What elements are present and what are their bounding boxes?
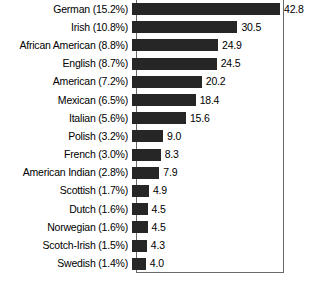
- bar: [132, 149, 161, 161]
- bar-row: Mexican (6.5%)18.4: [0, 91, 310, 109]
- bar: [132, 221, 148, 233]
- bar-value-label: 8.3: [161, 149, 179, 160]
- category-label: Mexican (6.5%): [0, 95, 132, 106]
- category-label: Irish (10.8%): [0, 22, 132, 33]
- bar-track: 9.0: [132, 127, 310, 145]
- category-label: Scottish (1.7%): [0, 185, 132, 196]
- bar-row: Scottish (1.7%)4.9: [0, 182, 310, 200]
- bar-track: 15.6: [132, 109, 310, 127]
- bar-track: 4.5: [132, 218, 310, 236]
- category-label: Norwegian (1.6%): [0, 222, 132, 233]
- bar-value-label: 4.5: [148, 204, 166, 215]
- bar-track: 4.5: [132, 200, 310, 218]
- category-label: Polish (3.2%): [0, 131, 132, 142]
- bar-row: German (15.2%)42.8: [0, 0, 310, 18]
- category-label: American (7.2%): [0, 76, 132, 87]
- bar-row: Norwegian (1.6%)4.5: [0, 218, 310, 236]
- ancestry-bar-chart: German (15.2%)42.8Irish (10.8%)30.5Afric…: [0, 0, 310, 281]
- bar-track: 30.5: [132, 18, 310, 36]
- category-label: English (8.7%): [0, 58, 132, 69]
- bar-value-label: 18.4: [196, 95, 220, 106]
- category-label: French (3.0%): [0, 149, 132, 160]
- bar-track: 4.0: [132, 255, 310, 273]
- bar-row: American (7.2%)20.2: [0, 73, 310, 91]
- bar: [132, 258, 146, 270]
- bar-track: 24.9: [132, 36, 310, 54]
- bar-value-label: 4.5: [148, 222, 166, 233]
- category-label: African American (8.8%): [0, 40, 132, 51]
- bar-track: 4.3: [132, 236, 310, 254]
- category-label: Scotch-Irish (1.5%): [0, 240, 132, 251]
- bar-value-label: 4.0: [146, 258, 164, 269]
- bar: [132, 76, 202, 88]
- bar: [132, 58, 217, 70]
- bar-value-label: 4.3: [147, 240, 165, 251]
- category-label: Italian (5.6%): [0, 113, 132, 124]
- bar-row: English (8.7%)24.5: [0, 55, 310, 73]
- category-label: German (15.2%): [0, 4, 132, 15]
- bar: [132, 94, 196, 106]
- bar-row: Irish (10.8%)30.5: [0, 18, 310, 36]
- bar: [132, 130, 163, 142]
- bar-value-label: 20.2: [202, 76, 226, 87]
- bar: [132, 203, 148, 215]
- bar-row: American Indian (2.8%)7.9: [0, 164, 310, 182]
- bar-track: 42.8: [132, 0, 310, 18]
- bar-value-label: 7.9: [159, 167, 177, 178]
- bar: [132, 39, 218, 51]
- bar-value-label: 9.0: [163, 131, 181, 142]
- bar: [132, 167, 159, 179]
- bar-rows-container: German (15.2%)42.8Irish (10.8%)30.5Afric…: [0, 0, 310, 273]
- bar-track: 7.9: [132, 164, 310, 182]
- bar-value-label: 4.9: [149, 185, 167, 196]
- bar-track: 8.3: [132, 146, 310, 164]
- bar: [132, 185, 149, 197]
- bar-row: Dutch (1.6%)4.5: [0, 200, 310, 218]
- bar-value-label: 24.5: [217, 58, 241, 69]
- bar-value-label: 15.6: [186, 113, 210, 124]
- category-label: Swedish (1.4%): [0, 258, 132, 269]
- category-label: Dutch (1.6%): [0, 204, 132, 215]
- bar-row: Polish (3.2%)9.0: [0, 127, 310, 145]
- bar-row: Scotch-Irish (1.5%)4.3: [0, 236, 310, 254]
- bar: [132, 240, 147, 252]
- bar: [132, 3, 280, 15]
- bar-value-label: 42.8: [280, 4, 304, 15]
- bar-track: 20.2: [132, 73, 310, 91]
- bar-track: 24.5: [132, 55, 310, 73]
- bar-track: 4.9: [132, 182, 310, 200]
- category-label: American Indian (2.8%): [0, 167, 132, 178]
- bar-row: Italian (5.6%)15.6: [0, 109, 310, 127]
- bar: [132, 112, 186, 124]
- bar-track: 18.4: [132, 91, 310, 109]
- bar-row: French (3.0%)8.3: [0, 146, 310, 164]
- bar-row: African American (8.8%)24.9: [0, 36, 310, 54]
- bar-value-label: 30.5: [237, 22, 261, 33]
- bar-value-label: 24.9: [218, 40, 242, 51]
- bar-row: Swedish (1.4%)4.0: [0, 255, 310, 273]
- bar: [132, 21, 237, 33]
